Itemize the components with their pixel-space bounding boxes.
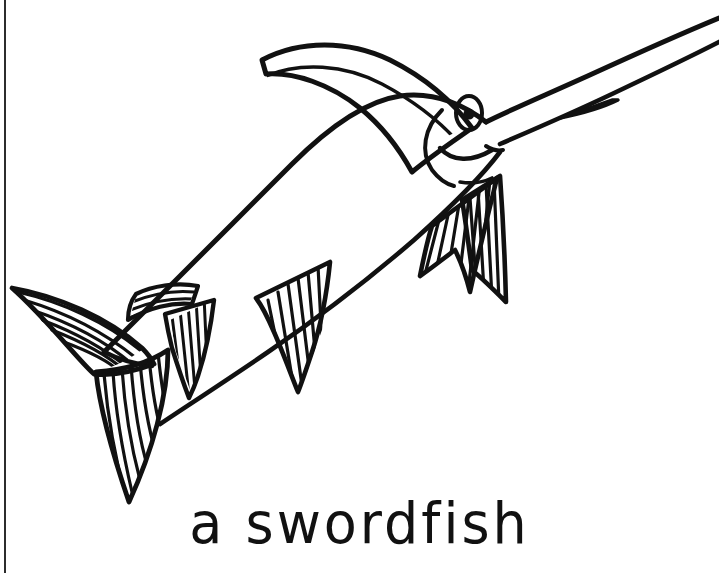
coloring-page: a swordfish xyxy=(0,0,719,573)
ventral-fin xyxy=(256,262,330,392)
anal-fin xyxy=(165,296,214,398)
tail-fin xyxy=(12,288,169,502)
swordfish-illustration xyxy=(0,0,719,573)
bill-shape xyxy=(486,18,719,144)
